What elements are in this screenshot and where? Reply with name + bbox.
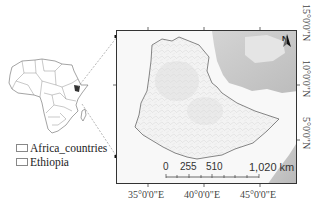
latitude-label-10n: 10°0'0"N [301, 60, 312, 97]
longitude-label-40e: 40°0'0"E [184, 189, 220, 200]
graticule-ticks [0, 0, 324, 210]
longitude-label-35e: 35°0'0"E [128, 189, 164, 200]
latitude-label-5n: 5°0'0"N [301, 117, 312, 149]
longitude-label-45e: 45°0'0"E [240, 189, 276, 200]
latitude-label-15n: 15°0'0"N [301, 4, 312, 41]
